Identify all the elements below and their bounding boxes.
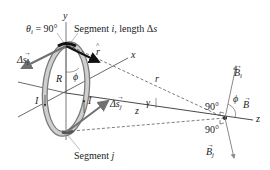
right-angle-bottom <box>220 120 224 124</box>
segment-i-label: Segment i, length Δs <box>74 23 157 34</box>
r-distance-label: r <box>155 73 159 84</box>
current-label-right: I <box>87 95 92 106</box>
segment-j <box>62 131 73 133</box>
phi-field-label: ϕ <box>233 93 238 104</box>
b-j-arrow-glyph: → <box>207 141 214 149</box>
b-j-vector <box>225 118 234 158</box>
gamma-label: γ <box>146 97 151 108</box>
axis-y-label: y <box>62 10 68 21</box>
delta-s-i-arrow-glyph: → <box>24 49 31 57</box>
delta-s-j-arrow-glyph: → <box>117 93 124 101</box>
angle-90-top: 90° <box>205 101 219 112</box>
current-label-left: I <box>34 95 39 106</box>
axis-z-label-right: z <box>255 113 260 124</box>
phi-field-arc <box>228 104 236 118</box>
b-net-arrow-glyph: → <box>244 94 251 102</box>
b-i-arrow-glyph: → <box>235 62 242 70</box>
current-loop-diagram: y θi = 90° Segment i, length Δs Δsi → r … <box>0 0 270 170</box>
axis-x-label: x <box>130 49 136 60</box>
segment-j-label: Segment j <box>74 150 115 161</box>
segment-j-pointer <box>66 133 80 150</box>
phi-loop-label: ϕ <box>73 71 78 82</box>
r-line-j <box>72 118 225 131</box>
theta-i-label: θi = 90° <box>26 23 58 36</box>
axis-z-label-left: z <box>134 105 139 116</box>
angle-90-bottom: 90° <box>205 124 219 135</box>
radius-label: R <box>55 73 62 84</box>
